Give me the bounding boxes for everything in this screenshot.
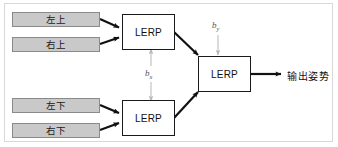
lerp-node-bottom-label: LERP [135, 113, 162, 124]
edge-bottomright-to-lerpbottom [100, 123, 119, 130]
input-label-top-right: 右上 [46, 40, 67, 50]
input-box-top-left[interactable]: 左上 [12, 12, 100, 27]
input-box-top-right[interactable]: 右上 [12, 37, 100, 52]
lerp-node-bottom[interactable]: LERP [122, 100, 175, 136]
input-label-bottom-left: 左下 [46, 101, 67, 111]
diagram-canvas: 左上 右上 左下 右下 LERP LERP LERP bx by 输出姿势 [0, 0, 338, 147]
lerp-node-top[interactable]: LERP [122, 14, 175, 50]
blend-factor-bx-sub: x [150, 73, 153, 80]
input-label-bottom-right: 右下 [46, 126, 67, 136]
input-box-bottom-right[interactable]: 右下 [12, 123, 100, 138]
edge-topleft-to-lerptop [100, 19, 119, 28]
blend-factor-bx: bx [145, 68, 152, 80]
input-label-top-left: 左上 [46, 15, 67, 25]
edge-topright-to-lerptop [100, 38, 119, 45]
blend-factor-by: by [212, 20, 219, 32]
lerp-node-final-label: LERP [211, 69, 238, 80]
edge-bottomleft-to-lerpbottom [100, 105, 119, 113]
output-pose-label: 输出姿势 [287, 68, 329, 83]
input-box-bottom-left[interactable]: 左下 [12, 98, 100, 113]
edge-lerptop-to-lerpfinal [174, 32, 198, 55]
blend-factor-by-sub: y [217, 25, 220, 32]
edge-lerpbottom-to-lerpfinal [174, 92, 198, 118]
lerp-node-top-label: LERP [135, 27, 162, 38]
lerp-node-final[interactable]: LERP [198, 56, 251, 92]
